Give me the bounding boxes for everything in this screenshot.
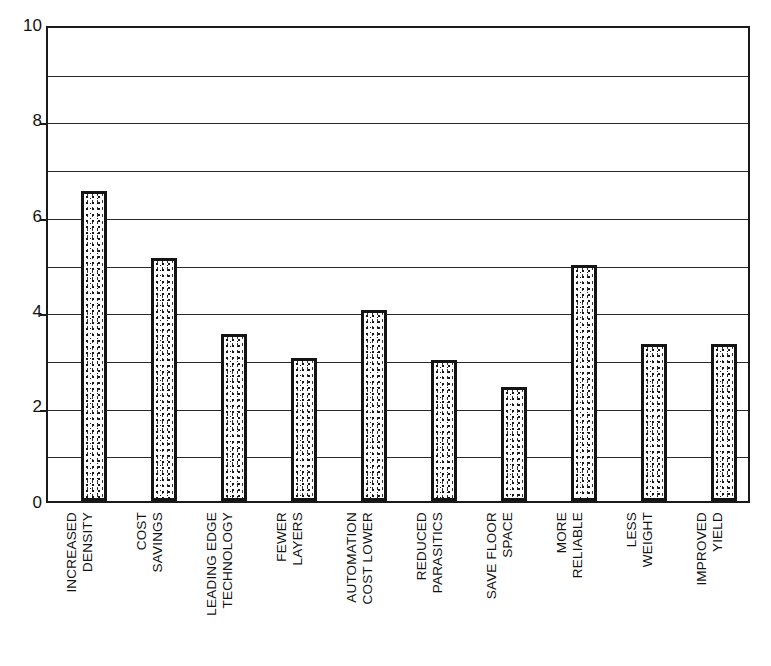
x-label-line1: AUTOMATION (344, 512, 359, 603)
bar-improved-yield (711, 344, 737, 501)
x-label-line2: SPACE (500, 512, 516, 662)
x-label-line2: COST LOWER (360, 512, 376, 662)
y-axis-label-2: 2 (8, 398, 42, 415)
gridline-7 (48, 171, 748, 172)
y-tick-8 (40, 123, 48, 125)
x-axis-label-automation-cost-lower: AUTOMATION COST LOWER (344, 512, 375, 662)
x-axis-label-fewer-layers: FEWER LAYERS (274, 512, 305, 662)
x-axis-label-reduced-parasitics: REDUCED PARASITICS (414, 512, 445, 662)
x-label-line2: TECHNOLOGY (220, 512, 236, 662)
bar-save-floor-space (501, 387, 527, 502)
x-label-line1: FEWER (274, 512, 289, 562)
x-axis-label-more-reliable: MORE RELIABLE (554, 512, 585, 662)
x-axis-label-less-weight: LESS WEIGHT (624, 512, 655, 662)
x-label-line1: LESS (624, 512, 639, 547)
bar-less-weight (641, 344, 667, 501)
x-label-line1: IMPROVED (694, 512, 709, 586)
y-axis-label-10: 10 (8, 17, 42, 34)
gridline-6 (48, 219, 748, 220)
x-label-line2: YIELD (710, 512, 726, 662)
x-axis-label-save-floor-space: SAVE FLOOR SPACE (484, 512, 515, 662)
bar-cost-savings (151, 258, 177, 501)
x-axis-label-cost-savings: COST SAVINGS (134, 512, 165, 662)
x-label-line2: WEIGHT (640, 512, 656, 662)
x-axis-label-leading-edge-technology: LEADING EDGE TECHNOLOGY (204, 512, 235, 662)
y-axis-label-0: 0 (8, 494, 42, 511)
bar-chart: 0 2 4 6 8 10 INCREASED DENSITY (0, 0, 771, 666)
plot-area (46, 26, 750, 503)
bar-fewer-layers (291, 358, 317, 501)
x-label-line1: SAVE FLOOR (484, 512, 499, 599)
y-axis-label-8: 8 (8, 112, 42, 129)
x-label-line2: SAVINGS (150, 512, 166, 662)
x-label-line1: MORE (554, 512, 569, 553)
x-label-line1: INCREASED (64, 512, 79, 593)
x-label-line2: DENSITY (80, 512, 96, 662)
bar-automation-cost-lower (361, 310, 387, 501)
x-axis-label-improved-yield: IMPROVED YIELD (694, 512, 725, 662)
x-label-line2: RELIABLE (570, 512, 586, 662)
bar-increased-density (81, 191, 107, 501)
y-axis-label-6: 6 (8, 208, 42, 225)
x-label-line1: LEADING EDGE (204, 512, 219, 616)
x-label-line2: LAYERS (290, 512, 306, 662)
x-label-line2: PARASITICS (430, 512, 446, 662)
bar-more-reliable (571, 265, 597, 501)
y-tick-6 (40, 219, 48, 221)
gridline-9 (48, 76, 748, 77)
gridline-8 (48, 123, 748, 124)
bar-reduced-parasitics (431, 360, 457, 501)
bar-leading-edge-technology (221, 334, 247, 501)
x-label-line1: REDUCED (414, 512, 429, 580)
x-label-line1: COST (134, 512, 149, 550)
y-tick-4 (40, 314, 48, 316)
x-axis-label-increased-density: INCREASED DENSITY (64, 512, 95, 662)
y-axis-label-4: 4 (8, 303, 42, 320)
y-tick-2 (40, 410, 48, 412)
